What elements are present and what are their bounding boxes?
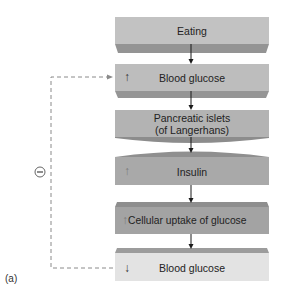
negative-feedback-icon	[35, 167, 45, 177]
diagram-canvas	[0, 0, 285, 304]
step-label-eating: Eating	[115, 25, 269, 37]
step-label-pancreatic-islets-sub: (of Langerhans)	[115, 124, 269, 136]
feedback-arrowhead	[107, 75, 113, 80]
step-label-blood-glucose-down: Blood glucose	[115, 262, 269, 274]
step-label-cellular-uptake: Cellular uptake of glucose	[128, 215, 269, 227]
step-label-blood-glucose-up: Blood glucose	[115, 72, 269, 84]
step-label-insulin: Insulin	[115, 166, 269, 178]
panel-label: (a)	[5, 273, 17, 284]
step-label-pancreatic-islets: Pancreatic islets	[115, 112, 269, 124]
feedback-loop-dashed	[51, 77, 113, 268]
